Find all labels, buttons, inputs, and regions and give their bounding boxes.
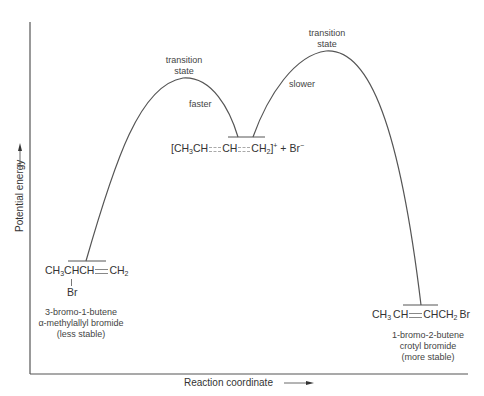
ts1-label: transition state <box>164 55 204 77</box>
reactant-br: Br <box>67 286 78 298</box>
x-axis-label: Reaction coordinate <box>184 377 273 388</box>
product-formula: CH3CHCHCH2Br <box>372 308 470 320</box>
product-common-name: crotyl bromide <box>380 341 476 352</box>
bromide-ion: + Br <box>277 142 299 154</box>
product-names: 1-bromo-2-butene crotyl bromide (more st… <box>380 330 476 363</box>
reactant-ch2: CH <box>109 264 124 276</box>
product-ch1: CH <box>393 308 408 320</box>
reactant-sub2: 2 <box>125 270 129 277</box>
intermediate-ch1: CH <box>193 142 208 154</box>
reactant-iupac-name: 3-bromo-1-butene <box>34 307 128 318</box>
product-iupac-name: 1-bromo-2-butene <box>380 330 476 341</box>
y-axis-label: Potential energy <box>14 160 25 232</box>
reactant-chch: CHCH <box>64 264 94 276</box>
reactant-names: 3-bromo-1-butene α-methylallyl bromide (… <box>34 307 128 340</box>
reactant-ch: CH <box>45 264 60 276</box>
intermediate-ch2-end: CH <box>251 142 266 154</box>
faster-label: faster <box>189 99 212 110</box>
product-sub3: 3 <box>387 314 391 321</box>
slower-label: slower <box>289 79 315 90</box>
bromide-charge: − <box>300 142 304 149</box>
reactant-common-name: α-methylallyl bromide <box>34 318 128 329</box>
intermediate-open: [CH <box>171 142 189 154</box>
reactant-formula: CH3CHCHCH2 <box>45 264 129 276</box>
intermediate-ch2: CH <box>222 142 237 154</box>
product-stability: (more stable) <box>380 352 476 363</box>
reactant-br-bond <box>71 279 72 286</box>
product-sub2: 2 <box>454 314 458 321</box>
partial-double-bond <box>209 147 221 152</box>
intermediate-formula: [CH3CHCHCH2]+ + Br− <box>171 142 304 154</box>
double-bond <box>409 313 422 318</box>
energy-curve-second-step <box>253 51 421 305</box>
energy-curve-first-step <box>86 78 238 261</box>
product-chch: CHCH <box>423 308 453 320</box>
ts1-label-line1: transition <box>164 55 204 66</box>
partial-double-bond <box>238 147 250 152</box>
double-bond <box>95 269 108 274</box>
ts2-label-line1: transition <box>307 28 347 39</box>
product-br: Br <box>460 308 471 320</box>
ts2-label-line2: state <box>307 39 347 50</box>
x-axis-arrow-head <box>306 381 314 385</box>
ts2-label: transition state <box>307 28 347 50</box>
product-ch: CH <box>372 308 387 320</box>
reactant-stability: (less stable) <box>34 329 128 340</box>
y-axis-arrow-head <box>18 143 22 151</box>
ts1-label-line2: state <box>164 66 204 77</box>
